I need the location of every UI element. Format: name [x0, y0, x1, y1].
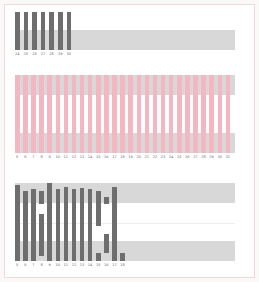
middle-bar — [64, 75, 69, 153]
middle-bar — [23, 75, 28, 153]
bottom-bar-segment — [104, 234, 109, 254]
x-tick-label: 12 — [70, 155, 78, 159]
middle-chart-panel: 5678910111213141516171819202122232425262… — [15, 75, 235, 160]
bottom-bar-segment — [39, 214, 44, 255]
x-tick-label: 5 — [13, 263, 21, 267]
x-tick-label: 28 — [48, 52, 56, 56]
x-tick-label: 22 — [151, 155, 159, 159]
top-bar — [67, 12, 72, 50]
middle-bar — [201, 75, 206, 153]
bottom-bar-segment — [15, 185, 20, 261]
bottom-bar-segment — [96, 253, 101, 261]
x-tick-label: 6 — [21, 263, 29, 267]
bottom-bar-segment — [72, 189, 77, 261]
x-tick-label: 14 — [86, 263, 94, 267]
middle-bar — [177, 75, 182, 153]
top-chart-panel: 24252627282930 — [15, 10, 235, 55]
middle-bar — [39, 75, 44, 153]
middle-bar — [153, 75, 158, 153]
x-tick-label: 26 — [183, 155, 191, 159]
x-tick-label: 25 — [22, 52, 30, 56]
x-tick-label: 11 — [62, 155, 70, 159]
x-tick-label: 13 — [78, 263, 86, 267]
x-tick-label: 14 — [86, 155, 94, 159]
x-tick-label: 28 — [200, 155, 208, 159]
bottom-bar-segment — [39, 191, 44, 204]
x-tick-label: 10 — [54, 263, 62, 267]
x-tick-label: 23 — [159, 155, 167, 159]
bottom-bar-segment — [120, 253, 125, 261]
middle-bar — [104, 75, 109, 153]
bottom-bar-segment — [47, 183, 52, 261]
x-tick-label: 5 — [13, 155, 21, 159]
bottom-bar-segment — [31, 189, 36, 261]
middle-bar — [137, 75, 142, 153]
x-tick-label: 25 — [175, 155, 183, 159]
x-tick-label: 6 — [21, 155, 29, 159]
middle-bar — [161, 75, 166, 153]
x-tick-label: 18 — [119, 263, 127, 267]
bottom-bar-segment — [88, 189, 93, 261]
bottom-bar-segment — [112, 187, 117, 261]
top-bar — [58, 12, 63, 50]
x-tick-label: 24 — [167, 155, 175, 159]
middle-bar — [145, 75, 150, 153]
bottom-bar-segment — [56, 189, 61, 261]
x-tick-label: 9 — [46, 263, 54, 267]
top-bar — [32, 12, 37, 50]
x-tick-label: 11 — [62, 263, 70, 267]
x-tick-label: 21 — [143, 155, 151, 159]
middle-bar — [88, 75, 93, 153]
x-tick-label: 26 — [30, 52, 38, 56]
x-tick-label: 16 — [102, 263, 110, 267]
top-bar — [49, 12, 54, 50]
middle-bar — [80, 75, 85, 153]
middle-bar — [96, 75, 101, 153]
middle-bar — [218, 75, 223, 153]
middle-bar — [128, 75, 133, 153]
bottom-bar-segment — [104, 197, 109, 204]
middle-bar — [31, 75, 36, 153]
x-tick-label: 10 — [54, 155, 62, 159]
x-tick-label: 29 — [208, 155, 216, 159]
x-tick-label: 19 — [127, 155, 135, 159]
x-tick-label: 24 — [13, 52, 21, 56]
x-tick-label: 27 — [39, 52, 47, 56]
middle-bar — [209, 75, 214, 153]
middle-bar — [193, 75, 198, 153]
bottom-bar-segment — [23, 191, 28, 261]
x-tick-label: 16 — [102, 155, 110, 159]
x-tick-label: 31 — [224, 155, 232, 159]
middle-bar — [15, 75, 20, 153]
x-tick-label: 7 — [29, 263, 37, 267]
middle-bar — [112, 75, 117, 153]
middle-bar — [169, 75, 174, 153]
x-tick-label: 13 — [78, 155, 86, 159]
x-tick-label: 7 — [29, 155, 37, 159]
bottom-bar-segment — [96, 191, 101, 226]
top-band — [15, 30, 235, 50]
x-tick-label: 12 — [70, 263, 78, 267]
middle-bar — [47, 75, 52, 153]
bottom-bar-segment — [64, 187, 69, 261]
x-tick-label: 27 — [191, 155, 199, 159]
x-tick-label: 30 — [65, 52, 73, 56]
x-tick-label: 8 — [38, 155, 46, 159]
top-bar — [15, 12, 20, 50]
x-tick-label: 17 — [110, 263, 118, 267]
x-tick-label: 17 — [110, 155, 118, 159]
x-tick-label: 29 — [56, 52, 64, 56]
bottom-chart-panel: 56789101112131415161718 — [15, 183, 235, 273]
x-tick-label: 18 — [119, 155, 127, 159]
x-tick-label: 30 — [216, 155, 224, 159]
x-tick-label: 20 — [135, 155, 143, 159]
x-tick-label: 15 — [94, 263, 102, 267]
x-tick-label: 15 — [94, 155, 102, 159]
middle-bar — [120, 75, 125, 153]
middle-bar — [185, 75, 190, 153]
top-bar — [24, 12, 29, 50]
middle-bar — [72, 75, 77, 153]
middle-bar — [226, 75, 231, 153]
top-bar — [41, 12, 46, 50]
middle-bar — [56, 75, 61, 153]
